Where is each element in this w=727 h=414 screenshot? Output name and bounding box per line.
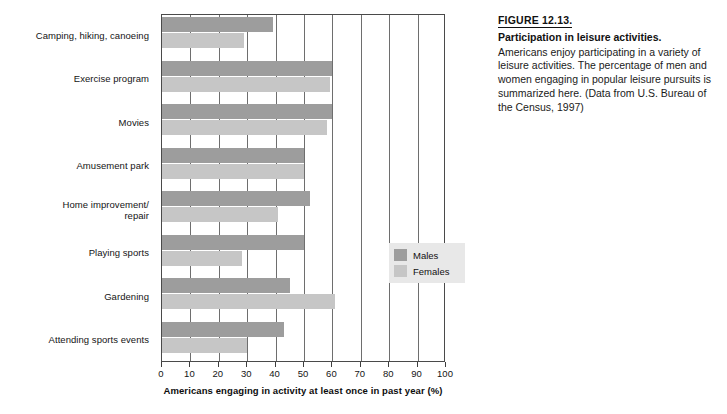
bar-females — [162, 338, 247, 353]
category-label-line: Playing sports — [0, 247, 149, 258]
chart-legend: MalesFemales — [389, 243, 465, 283]
xtick-label-90: 90 — [402, 368, 432, 379]
bar-females — [162, 207, 278, 222]
legend-label: Females — [413, 266, 449, 277]
legend-swatch-males — [394, 249, 407, 261]
bar-group — [162, 15, 444, 59]
category-label-line: Home improvement/ — [0, 199, 149, 210]
caption-figure-number-wrap: FIGURE 12.13. — [498, 10, 713, 28]
xtick-mark-40 — [275, 362, 276, 367]
category-label: Amusement park — [0, 160, 149, 171]
xtick-label-20: 20 — [203, 368, 233, 379]
bar-group — [162, 59, 444, 103]
xtick-mark-50 — [303, 362, 304, 367]
bar-males — [162, 104, 332, 119]
x-axis-title: Americans engaging in activity at least … — [130, 385, 476, 396]
legend-item-males: Males — [394, 247, 461, 263]
bar-females — [162, 164, 304, 179]
bar-group — [162, 320, 444, 364]
chart-pane: Camping, hiking, canoeingExercise progra… — [0, 0, 470, 414]
xtick-mark-70 — [360, 362, 361, 367]
bar-females — [162, 294, 335, 309]
figure-root: Camping, hiking, canoeingExercise progra… — [0, 0, 727, 414]
bars-layer — [162, 15, 444, 361]
xtick-mark-20 — [218, 362, 219, 367]
caption-title: Participation in leisure activities. — [498, 31, 713, 45]
legend-item-females: Females — [394, 263, 461, 279]
x-axis: 0102030405060708090100 — [161, 362, 445, 382]
bar-males — [162, 61, 332, 76]
category-label: Gardening — [0, 291, 149, 302]
xtick-mark-60 — [331, 362, 332, 367]
caption-pane: FIGURE 12.13. Participation in leisure a… — [498, 10, 713, 114]
xtick-label-100: 100 — [430, 368, 460, 379]
xtick-mark-90 — [417, 362, 418, 367]
category-label: Camping, hiking, canoeing — [0, 30, 149, 41]
xtick-label-10: 10 — [174, 368, 204, 379]
caption-figure-number: FIGURE 12.13. — [498, 14, 572, 28]
xtick-mark-100 — [445, 362, 446, 367]
category-label-line: Gardening — [0, 291, 149, 302]
xtick-mark-30 — [246, 362, 247, 367]
bar-males — [162, 148, 304, 163]
xtick-label-60: 60 — [316, 368, 346, 379]
category-axis: Camping, hiking, canoeingExercise progra… — [0, 14, 155, 362]
xtick-label-70: 70 — [345, 368, 375, 379]
category-label: Movies — [0, 117, 149, 128]
legend-label: Males — [413, 250, 438, 261]
category-label-line: Exercise program — [0, 73, 149, 84]
bar-group — [162, 146, 444, 190]
bar-females — [162, 120, 327, 135]
xtick-label-80: 80 — [373, 368, 403, 379]
xtick-mark-10 — [189, 362, 190, 367]
category-label-line: repair — [0, 210, 149, 221]
bar-females — [162, 33, 244, 48]
xtick-mark-0 — [161, 362, 162, 367]
xtick-label-0: 0 — [146, 368, 176, 379]
xtick-mark-80 — [388, 362, 389, 367]
caption-body: Americans enjoy participating in a varie… — [498, 46, 713, 115]
category-label-line: Attending sports events — [0, 334, 149, 345]
bar-females — [162, 251, 242, 266]
category-label: Home improvement/repair — [0, 199, 149, 221]
category-label: Exercise program — [0, 73, 149, 84]
xtick-label-40: 40 — [260, 368, 290, 379]
bar-group — [162, 189, 444, 233]
category-label-line: Movies — [0, 117, 149, 128]
bar-males — [162, 278, 290, 293]
bar-females — [162, 77, 330, 92]
category-label: Playing sports — [0, 247, 149, 258]
xtick-label-30: 30 — [231, 368, 261, 379]
bar-group — [162, 102, 444, 146]
bar-males — [162, 322, 284, 337]
category-label-line: Amusement park — [0, 160, 149, 171]
bar-males — [162, 17, 273, 32]
plot-area — [161, 14, 445, 362]
category-label: Attending sports events — [0, 334, 149, 345]
bar-males — [162, 191, 310, 206]
legend-swatch-females — [394, 265, 407, 277]
bar-males — [162, 235, 304, 250]
category-label-line: Camping, hiking, canoeing — [0, 30, 149, 41]
xtick-label-50: 50 — [288, 368, 318, 379]
